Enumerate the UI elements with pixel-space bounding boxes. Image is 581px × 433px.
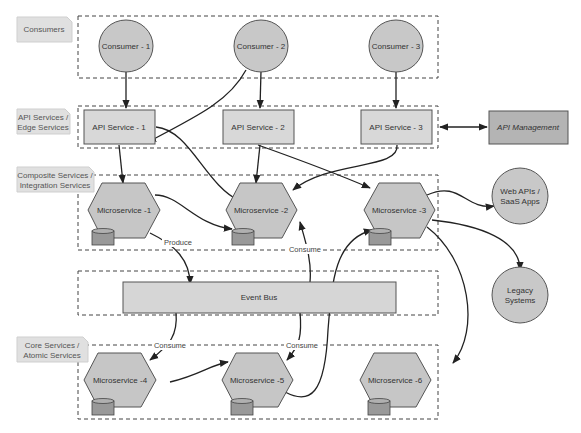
- tier-label-api-services: API Services / Edge Services: [17, 109, 70, 134]
- svg-text:API Service - 3: API Service - 3: [369, 123, 423, 132]
- edge-label-produce: Produce: [162, 237, 194, 247]
- api-management-node[interactable]: API Management: [489, 111, 568, 144]
- svg-text:API Service - 1: API Service - 1: [92, 123, 146, 132]
- tier-label-core-services: Core Services / Atomic Services: [17, 337, 88, 362]
- database-icon: [92, 399, 114, 416]
- consumer-node-1[interactable]: Consumer - 1: [99, 20, 153, 72]
- microservice-node-6[interactable]: Microservice -6: [360, 353, 431, 415]
- svg-text:Legacy: Legacy: [507, 286, 533, 295]
- database-icon: [368, 399, 390, 416]
- consumer-node-2[interactable]: Consumer - 2: [234, 20, 288, 72]
- api-service-node-3[interactable]: API Service - 3: [361, 110, 432, 144]
- legacy-systems-node[interactable]: Legacy Systems: [492, 267, 548, 323]
- svg-text:Microservice -4: Microservice -4: [93, 376, 148, 385]
- edge-ms1-ms2: [155, 195, 232, 229]
- svg-text:Microservice -1: Microservice -1: [97, 206, 152, 215]
- edge-consume-ms5: [287, 312, 301, 360]
- edge-label-consume-ms2: Consume: [287, 244, 323, 254]
- edge-consume-ms4: [150, 312, 176, 360]
- svg-text:Microservice -2: Microservice -2: [234, 206, 289, 215]
- svg-text:Consume: Consume: [154, 341, 186, 350]
- svg-text:Consumer - 1: Consumer - 1: [102, 42, 151, 51]
- svg-text:Consume: Consume: [289, 245, 321, 254]
- api-service-node-2[interactable]: API Service - 2: [223, 110, 294, 144]
- svg-text:Consumers: Consumers: [24, 25, 65, 34]
- microservice-node-3[interactable]: Microservice -3: [364, 183, 435, 245]
- event-bus-node[interactable]: Event Bus: [123, 282, 396, 313]
- svg-text:Systems: Systems: [505, 296, 536, 305]
- svg-text:Microservice -3: Microservice -3: [372, 206, 427, 215]
- api-service-node-1[interactable]: API Service - 1: [84, 110, 155, 144]
- edge-ms3-ms6: [427, 227, 468, 363]
- microservice-node-4[interactable]: Microservice -4: [84, 353, 156, 415]
- database-icon: [232, 229, 254, 246]
- svg-text:Core Services /: Core Services /: [25, 341, 80, 350]
- microservice-node-5[interactable]: Microservice -5: [222, 353, 293, 415]
- svg-text:API Management: API Management: [496, 123, 560, 132]
- edge-label-consume-ms5: Consume: [284, 340, 320, 350]
- svg-text:Microservice -6: Microservice -6: [368, 376, 423, 385]
- svg-text:Composite Services /: Composite Services /: [17, 171, 93, 180]
- database-icon: [92, 229, 114, 246]
- svg-text:Produce: Produce: [164, 238, 192, 247]
- consumer-node-3[interactable]: Consumer - 3: [369, 20, 423, 72]
- svg-text:Consumer - 2: Consumer - 2: [237, 42, 286, 51]
- web-apis-node[interactable]: Web APIs / SaaS Apps: [492, 168, 548, 224]
- edge-ms4-ms5: [170, 362, 228, 382]
- edge-label-consume-ms4: Consume: [152, 340, 188, 350]
- svg-text:Consume: Consume: [286, 341, 318, 350]
- svg-text:SaaS Apps: SaaS Apps: [500, 197, 540, 206]
- svg-text:Consumer - 3: Consumer - 3: [372, 42, 421, 51]
- edge-api1-ms1: [119, 145, 123, 183]
- edge-ms3-webapis: [427, 191, 494, 207]
- svg-text:Atomic Services: Atomic Services: [23, 351, 80, 360]
- svg-text:Edge Services: Edge Services: [17, 123, 69, 132]
- architecture-diagram: Consumers API Services / Edge Services C…: [0, 0, 581, 433]
- svg-text:API Services /: API Services /: [18, 113, 69, 122]
- database-icon: [369, 229, 391, 246]
- database-icon: [231, 399, 253, 416]
- svg-text:Web APIs /: Web APIs /: [500, 187, 540, 196]
- edge-consumer2-api2: [260, 71, 261, 108]
- microservice-node-1[interactable]: Microservice -1: [88, 183, 160, 245]
- tier-label-consumers: Consumers: [17, 17, 72, 42]
- tier-label-composite-services: Composite Services / Integration Service…: [17, 167, 94, 192]
- microservice-node-2[interactable]: Microservice -2: [226, 183, 297, 245]
- svg-text:Microservice -5: Microservice -5: [230, 376, 285, 385]
- edge-api2-ms2: [256, 145, 260, 183]
- svg-text:Integration Services: Integration Services: [20, 181, 91, 190]
- svg-text:Event Bus: Event Bus: [241, 293, 277, 302]
- svg-text:API Service - 2: API Service - 2: [231, 123, 285, 132]
